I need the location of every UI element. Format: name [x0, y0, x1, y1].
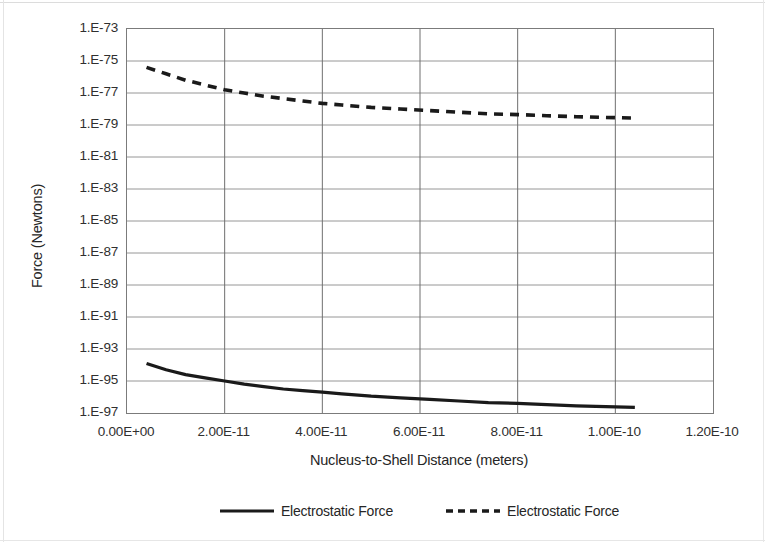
y-tick-label: 1.E-83	[0, 181, 118, 195]
x-tick-label: 4.00E-11	[266, 424, 376, 440]
y-tick-label: 1.E-91	[0, 309, 118, 323]
legend-entry-2[interactable]: Electrostatic Force	[445, 503, 619, 519]
x-tick-label: 6.00E-11	[364, 424, 474, 440]
y-tick-label: 1.E-93	[0, 341, 118, 355]
chart-legend: Electrostatic ForceElectrostatic Force	[126, 498, 712, 524]
plot-area	[126, 28, 714, 414]
legend-label: Electrostatic Force	[281, 503, 393, 519]
x-tick-label: 0.00E+00	[71, 424, 181, 440]
data-series-group	[147, 67, 638, 407]
x-tick-label: 1.20E-10	[657, 424, 765, 440]
y-tick-label: 1.E-81	[0, 149, 118, 163]
x-axis-tick-labels: 0.00E+002.00E-114.00E-116.00E-118.00E-11…	[0, 424, 765, 444]
legend-entry-1[interactable]: Electrostatic Force	[219, 503, 393, 519]
legend-label: Electrostatic Force	[507, 503, 619, 519]
x-tick-label: 1.00E-10	[559, 424, 669, 440]
y-tick-label: 1.E-87	[0, 245, 118, 259]
series-line-1	[147, 363, 635, 407]
x-tick-label: 2.00E-11	[169, 424, 279, 440]
y-tick-label: 1.E-73	[0, 21, 118, 35]
y-tick-label: 1.E-95	[0, 373, 118, 387]
legend-solid-line-icon	[219, 505, 275, 517]
y-axis-title-wrap: Force (Newtons)	[26, 150, 48, 320]
scan-edge-right	[763, 0, 764, 542]
y-tick-label: 1.E-77	[0, 85, 118, 99]
plot-canvas	[127, 29, 713, 413]
y-tick-label: 1.E-85	[0, 213, 118, 227]
y-tick-label: 1.E-79	[0, 117, 118, 131]
y-tick-label: 1.E-97	[0, 405, 118, 419]
y-axis-title: Force (Newtons)	[29, 151, 45, 321]
y-tick-label: 1.E-89	[0, 277, 118, 291]
legend-dashed-line-icon	[445, 505, 501, 517]
x-tick-label: 8.00E-11	[462, 424, 572, 440]
y-tick-label: 1.E-75	[0, 53, 118, 67]
x-axis-title: Nucleus-to-Shell Distance (meters)	[126, 452, 712, 468]
y-axis-tick-labels: 1.E-731.E-751.E-771.E-791.E-811.E-831.E-…	[0, 0, 118, 542]
chart-figure: 1.E-731.E-751.E-771.E-791.E-811.E-831.E-…	[0, 0, 765, 542]
